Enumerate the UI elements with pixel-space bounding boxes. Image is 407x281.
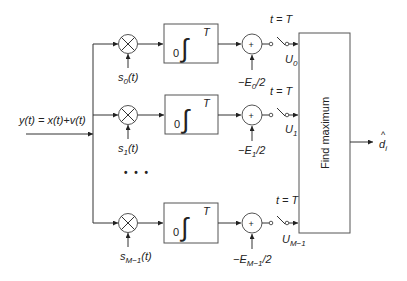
svg-text:+: + <box>249 219 254 229</box>
sampling-switch-m-minus-1 <box>262 216 298 225</box>
svg-text:0: 0 <box>174 118 180 130</box>
input-label: y(t) = x(t)+v(t) <box>18 114 86 126</box>
sampling-switch-1 <box>262 108 298 117</box>
find-maximum-block: Find maximum <box>299 33 350 233</box>
switch-label-m-minus-1: t = T <box>276 194 300 206</box>
svg-text:0: 0 <box>173 226 179 238</box>
reference-signal-0: s0(t) <box>118 71 139 86</box>
output-u-m-minus-1: UM−1 <box>282 233 306 248</box>
bias-1: −E1/2 <box>238 144 265 159</box>
bias-0: −E0/2 <box>238 76 265 91</box>
svg-text:0: 0 <box>173 47 179 59</box>
svg-text:+: + <box>249 111 254 121</box>
branch-1: s1(t) 0 ∫ T + −E1/2 t = T U1 <box>93 85 298 159</box>
output-u-0: U0 <box>285 53 298 68</box>
input-signal: y(t) = x(t)+v(t) <box>18 114 93 134</box>
multiplier-m-minus-1 <box>119 214 138 233</box>
svg-text:+: + <box>249 40 254 50</box>
integrator-1: 0 ∫ T <box>165 95 218 134</box>
integrator-m-minus-1: 0 ∫ T <box>164 203 218 243</box>
switch-label-1: t = T <box>270 85 294 97</box>
output-u-1: U1 <box>285 123 297 138</box>
integrator-0: 0 ∫ T <box>164 24 218 63</box>
bias-m-minus-1: −EM−1/2 <box>233 253 272 268</box>
summer-1: + <box>242 105 262 125</box>
output-symbol: di <box>379 138 387 153</box>
reference-signal-1: s1(t) <box>118 142 139 157</box>
correlation-receiver-diagram: y(t) = x(t)+v(t) s0(t) 0 ∫ T + −E0/2 <box>0 0 407 281</box>
summer-m-minus-1: + <box>242 213 262 233</box>
decision-output: ^ di <box>350 130 387 153</box>
ellipsis: • • • <box>124 167 150 178</box>
reference-signal-m-minus-1: sM−1(t) <box>120 250 152 265</box>
branch-0: s0(t) 0 ∫ T + −E0/2 t = T U0 <box>93 13 298 91</box>
multiplier-0 <box>119 35 138 54</box>
switch-label-0: t = T <box>270 13 294 25</box>
summer-0: + <box>242 34 262 54</box>
multiplier-1 <box>119 106 138 125</box>
sampling-switch-0 <box>262 37 298 46</box>
branch-m-minus-1: sM−1(t) 0 ∫ T + −EM−1/2 t = T UM−1 <box>93 194 306 268</box>
find-maximum-label: Find maximum <box>319 97 331 169</box>
